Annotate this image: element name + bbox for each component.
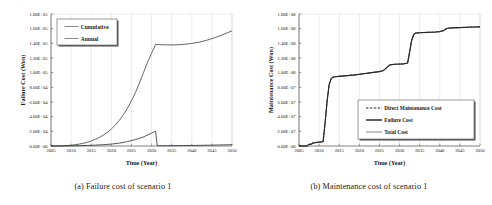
x-tick-label: 2035 (167, 148, 177, 153)
y-tick-label: 2.00E+04 (30, 129, 49, 134)
y-tick-label: 1.00E+08 (278, 70, 297, 75)
y-tick-label: 8.00E+04 (30, 85, 49, 90)
y-tick-label: 1.60E+08 (278, 26, 297, 31)
legend-label: Failure Cost (384, 117, 413, 123)
y-tick-label: 4.00E+04 (30, 114, 49, 119)
chart-panel-a: 0.00E+002.00E+044.00E+046.00E+048.00E+04… (0, 0, 246, 205)
series-cumulative (51, 31, 232, 146)
x-tick-label: 2015 (335, 148, 345, 153)
series-annual (51, 131, 232, 146)
x-tick-label: 2045 (455, 148, 465, 153)
x-tick-label: 2005 (294, 148, 304, 153)
y-tick-label: 4.00E+07 (278, 114, 297, 119)
x-tick-label: 2020 (107, 148, 117, 153)
legend-label: Total Cost (384, 129, 408, 135)
x-tick-label: 2035 (415, 148, 425, 153)
y-tick-label: 2.00E+07 (278, 129, 297, 134)
x-tick-label: 2005 (46, 148, 56, 153)
y-tick-label: 1.80E+08 (278, 12, 297, 17)
y-tick-label: 1.60E+05 (30, 26, 49, 31)
x-tick-label: 2050 (227, 148, 237, 153)
y-tick-label: 6.00E+04 (30, 100, 49, 105)
x-tick-label: 2025 (127, 148, 137, 153)
panel-a-caption: (a) Failure cost of scenario 1 (0, 182, 246, 191)
legend-label: Annual (81, 36, 99, 42)
y-axis-title: Failure Cost (Won) (19, 55, 27, 106)
chart-panel-b: 0.00E+002.00E+074.00E+076.00E+078.00E+07… (246, 0, 492, 205)
x-axis-title: Time (Year) (126, 159, 158, 167)
y-tick-label: 1.40E+08 (278, 41, 297, 46)
figure-container: 0.00E+002.00E+044.00E+046.00E+048.00E+04… (0, 0, 492, 205)
x-tick-label: 2025 (375, 148, 385, 153)
x-tick-label: 2040 (435, 148, 445, 153)
failure-cost-chart: 0.00E+002.00E+044.00E+046.00E+048.00E+04… (0, 0, 246, 182)
x-tick-label: 2045 (207, 148, 217, 153)
x-tick-label: 2015 (87, 148, 97, 153)
maintenance-cost-chart: 0.00E+002.00E+074.00E+076.00E+078.00E+07… (246, 0, 492, 182)
x-tick-label: 2010 (67, 148, 77, 153)
x-tick-label: 2040 (187, 148, 197, 153)
x-axis-title: Time (Year) (374, 159, 406, 167)
y-tick-label: 6.00E+07 (278, 100, 297, 105)
y-tick-label: 1.80E+05 (30, 12, 49, 17)
x-tick-label: 2030 (395, 148, 405, 153)
y-tick-label: 1.40E+05 (30, 41, 49, 46)
y-axis-title: Maintenance Cost (Won) (267, 47, 275, 113)
y-tick-label: 1.20E+05 (30, 56, 49, 61)
y-tick-label: 1.00E+05 (30, 70, 49, 75)
legend-label: Direct Maintenance Cost (384, 105, 442, 111)
x-tick-label: 2050 (475, 148, 485, 153)
x-tick-label: 2020 (355, 148, 365, 153)
y-tick-label: 8.00E+07 (278, 85, 297, 90)
panel-b-caption: (b) Maintenance cost of scenario 1 (246, 182, 492, 191)
legend-label: Cumulative (81, 24, 109, 30)
y-tick-label: 1.20E+08 (278, 56, 297, 61)
x-tick-label: 2010 (315, 148, 325, 153)
x-tick-label: 2030 (147, 148, 157, 153)
